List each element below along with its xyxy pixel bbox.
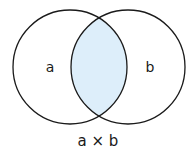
set-a-label: a [46, 59, 55, 75]
set-b-label: b [146, 59, 155, 75]
caption: a × b [78, 132, 119, 150]
venn-diagram: a b a × b [0, 0, 194, 153]
